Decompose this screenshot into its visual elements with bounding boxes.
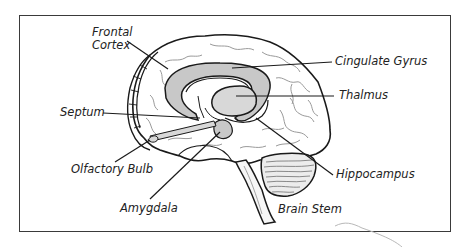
thalamus-shape [212, 86, 257, 116]
label-frontal-cortex-line2: Cortex [92, 39, 132, 52]
leader-olfactory-bulb [115, 140, 150, 162]
cerebellum-shape [261, 153, 316, 196]
label-olfactory-bulb: Olfactory Bulb [71, 163, 153, 176]
brain-diagram: Frontal Cortex Cingulate Gyrus Thalmus S… [0, 0, 468, 247]
label-cingulate-gyrus: Cingulate Gyrus [335, 55, 427, 68]
brain-illustration [0, 0, 468, 247]
label-brain-stem: Brain Stem [278, 203, 342, 216]
label-hippocampus: Hippocampus [336, 168, 415, 181]
label-amygdala: Amygdala [120, 202, 178, 215]
label-septum: Septum [60, 106, 105, 119]
label-frontal-cortex: Frontal Cortex [92, 26, 132, 52]
stray-stroke [335, 223, 402, 247]
label-thalmus: Thalmus [339, 89, 388, 102]
